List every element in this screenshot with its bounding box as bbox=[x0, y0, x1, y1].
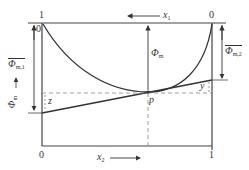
phi-m-left-label: Φm bbox=[7, 96, 17, 108]
x1-label: x1 bbox=[163, 10, 170, 20]
bottom-left-tick: 0 bbox=[39, 150, 44, 160]
point-p-label: p bbox=[149, 95, 154, 105]
phi-m-label: Φm bbox=[151, 48, 163, 58]
tangent-line bbox=[42, 80, 212, 113]
top-left-tick: 1 bbox=[39, 10, 44, 20]
top-right-tick: 0 bbox=[209, 10, 214, 20]
y-label: y bbox=[200, 81, 204, 91]
phi-m2-bar-label: Φm,2 bbox=[225, 45, 242, 56]
mixing-curve bbox=[43, 24, 212, 92]
z-label: z bbox=[48, 96, 52, 106]
phi-m1-bar-label: Φm,1 bbox=[8, 58, 25, 69]
inner-top-left-tick: 0 bbox=[36, 24, 41, 34]
x2-label: x2 bbox=[97, 152, 104, 162]
bottom-right-tick: 1 bbox=[209, 150, 214, 160]
diagram-canvas: 1 0 0 x1 x2 0 1 Φm Φm,1 Φm,2 Φm p z y bbox=[0, 0, 249, 170]
